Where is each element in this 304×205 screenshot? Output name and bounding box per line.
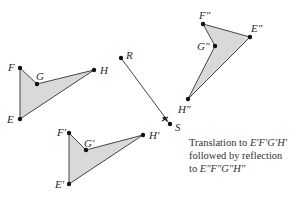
caption-line1-text: Translation to xyxy=(189,137,250,148)
label-h-double-prime: H″ xyxy=(178,104,191,115)
label-e-double-prime: E″ xyxy=(251,23,262,34)
caption-line1-math: E′F′G′H′ xyxy=(250,137,287,148)
label-f: F xyxy=(8,62,15,73)
label-f-prime: F′ xyxy=(57,127,66,138)
label-g-double-prime: G″ xyxy=(197,41,210,52)
label-e: E xyxy=(7,114,14,125)
quadrilateral-efgh xyxy=(20,68,94,119)
caption-line3-text: to xyxy=(189,163,200,174)
label-e-prime: E′ xyxy=(55,179,64,190)
label-f-double-prime: F″ xyxy=(199,10,210,21)
label-g: G xyxy=(36,71,44,82)
label-h: H xyxy=(100,65,108,76)
label-r: R xyxy=(126,50,133,61)
label-g-prime: G′ xyxy=(84,138,94,149)
quadrilateral-e-prime xyxy=(69,133,143,184)
label-h-prime: H′ xyxy=(149,130,159,141)
line-rs xyxy=(121,58,167,120)
caption-line2-text: followed by reflection xyxy=(189,150,282,161)
quadrilateral-e-double-prime xyxy=(188,24,250,99)
caption-line3-math: E″F″G″H″ xyxy=(200,163,246,174)
label-s: S xyxy=(175,122,181,133)
caption: Translation to E′F′G′H′ followed by refl… xyxy=(189,136,287,175)
